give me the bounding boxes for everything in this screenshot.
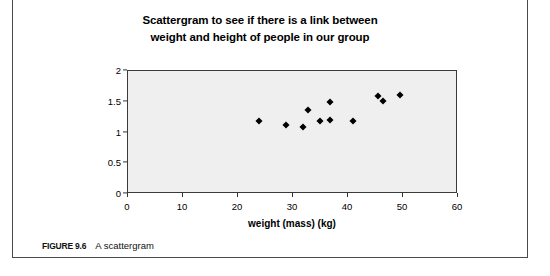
x-tick-mark [347,193,348,197]
x-tick-mark [402,193,403,197]
figure-caption-label: FIGURE 9.6 [42,241,86,251]
x-tick-mark [457,193,458,197]
y-tick-mark [123,69,127,70]
scatter-chart: Scattergram to see if there is a link be… [0,0,550,276]
y-tick-label: 2 [93,65,121,76]
y-tick-mark [123,131,127,132]
plot-area [127,70,457,193]
x-tick-label: 20 [222,201,252,212]
x-tick-label: 10 [167,201,197,212]
x-tick-label: 60 [442,201,472,212]
x-tick-mark [182,193,183,197]
x-tick-label: 0 [112,201,142,212]
y-tick-label: 0 [93,188,121,199]
x-tick-mark [237,193,238,197]
x-axis-title: weight (mass) (kg) [127,218,457,229]
y-tick-label: 1.5 [93,95,121,106]
y-tick-label: 0.5 [93,157,121,168]
figure-caption: FIGURE 9.6A scattergram [42,240,154,251]
y-tick-mark [123,162,127,163]
chart-title-line-1: Scattergram to see if there is a link be… [60,12,460,29]
x-tick-mark [292,193,293,197]
x-tick-label: 40 [332,201,362,212]
x-tick-label: 50 [387,201,417,212]
x-tick-label: 30 [277,201,307,212]
figure-caption-text: A scattergram [95,240,154,251]
x-tick-mark [127,193,128,197]
y-tick-label: 1 [93,126,121,137]
chart-title: Scattergram to see if there is a link be… [60,12,460,46]
y-tick-mark [123,100,127,101]
chart-title-line-2: weight and height of people in our group [60,29,460,46]
